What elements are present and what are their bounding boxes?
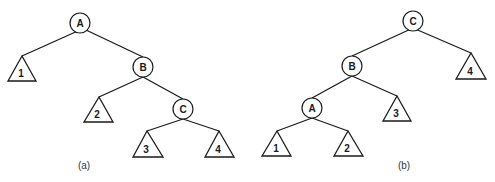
edge-a-C-3 xyxy=(147,119,183,131)
subtree-label: 4 xyxy=(215,144,221,155)
subtree-label: 4 xyxy=(467,66,473,77)
edge-a-A-1 xyxy=(22,30,80,56)
subtree-label: 3 xyxy=(393,108,399,119)
subtree-b-3: 3 xyxy=(383,96,411,121)
node-b-C: C xyxy=(403,11,423,31)
tree-b: C B A 4 3 1 2 (b) xyxy=(262,11,486,171)
node-a-A: A xyxy=(70,13,90,33)
node-label: A xyxy=(76,18,83,29)
subtree-a-3: 3 xyxy=(133,131,163,157)
subtree-a-1: 1 xyxy=(8,56,36,81)
node-label: A xyxy=(308,103,315,114)
node-label: C xyxy=(179,104,186,115)
edge-b-C-B xyxy=(352,28,413,56)
edge-b-B-3 xyxy=(352,76,397,96)
tree-a: A B C 1 2 3 4 (a) xyxy=(8,13,234,171)
node-a-B: B xyxy=(133,57,153,77)
subtree-label: 3 xyxy=(143,144,149,155)
edge-a-A-B xyxy=(86,30,143,57)
subtree-b-4: 4 xyxy=(456,53,486,79)
node-label: B xyxy=(348,61,355,72)
node-b-A: A xyxy=(302,98,322,118)
edge-a-C-4 xyxy=(183,119,219,131)
node-b-B: B xyxy=(342,56,362,76)
edge-b-A-2 xyxy=(312,118,348,131)
edge-b-B-A xyxy=(312,76,352,98)
subtree-a-2: 2 xyxy=(84,97,113,122)
edge-b-A-1 xyxy=(277,118,312,131)
node-a-C: C xyxy=(173,99,193,119)
tree-rotation-diagram: A B C 1 2 3 4 (a) xyxy=(0,0,495,182)
node-label: C xyxy=(409,16,416,27)
subtree-a-4: 4 xyxy=(205,131,234,157)
edge-a-B-C xyxy=(143,77,183,99)
node-label: B xyxy=(139,62,146,73)
subtree-b-1: 1 xyxy=(262,131,291,156)
caption-b: (b) xyxy=(398,160,410,171)
subtree-b-2: 2 xyxy=(334,131,363,156)
subtree-label: 1 xyxy=(273,143,279,154)
edge-b-C-4 xyxy=(413,28,471,53)
subtree-label: 2 xyxy=(344,143,350,154)
subtree-label: 2 xyxy=(94,109,100,120)
edge-a-B-2 xyxy=(99,77,143,97)
subtree-label: 1 xyxy=(18,68,24,79)
caption-a: (a) xyxy=(78,160,90,171)
